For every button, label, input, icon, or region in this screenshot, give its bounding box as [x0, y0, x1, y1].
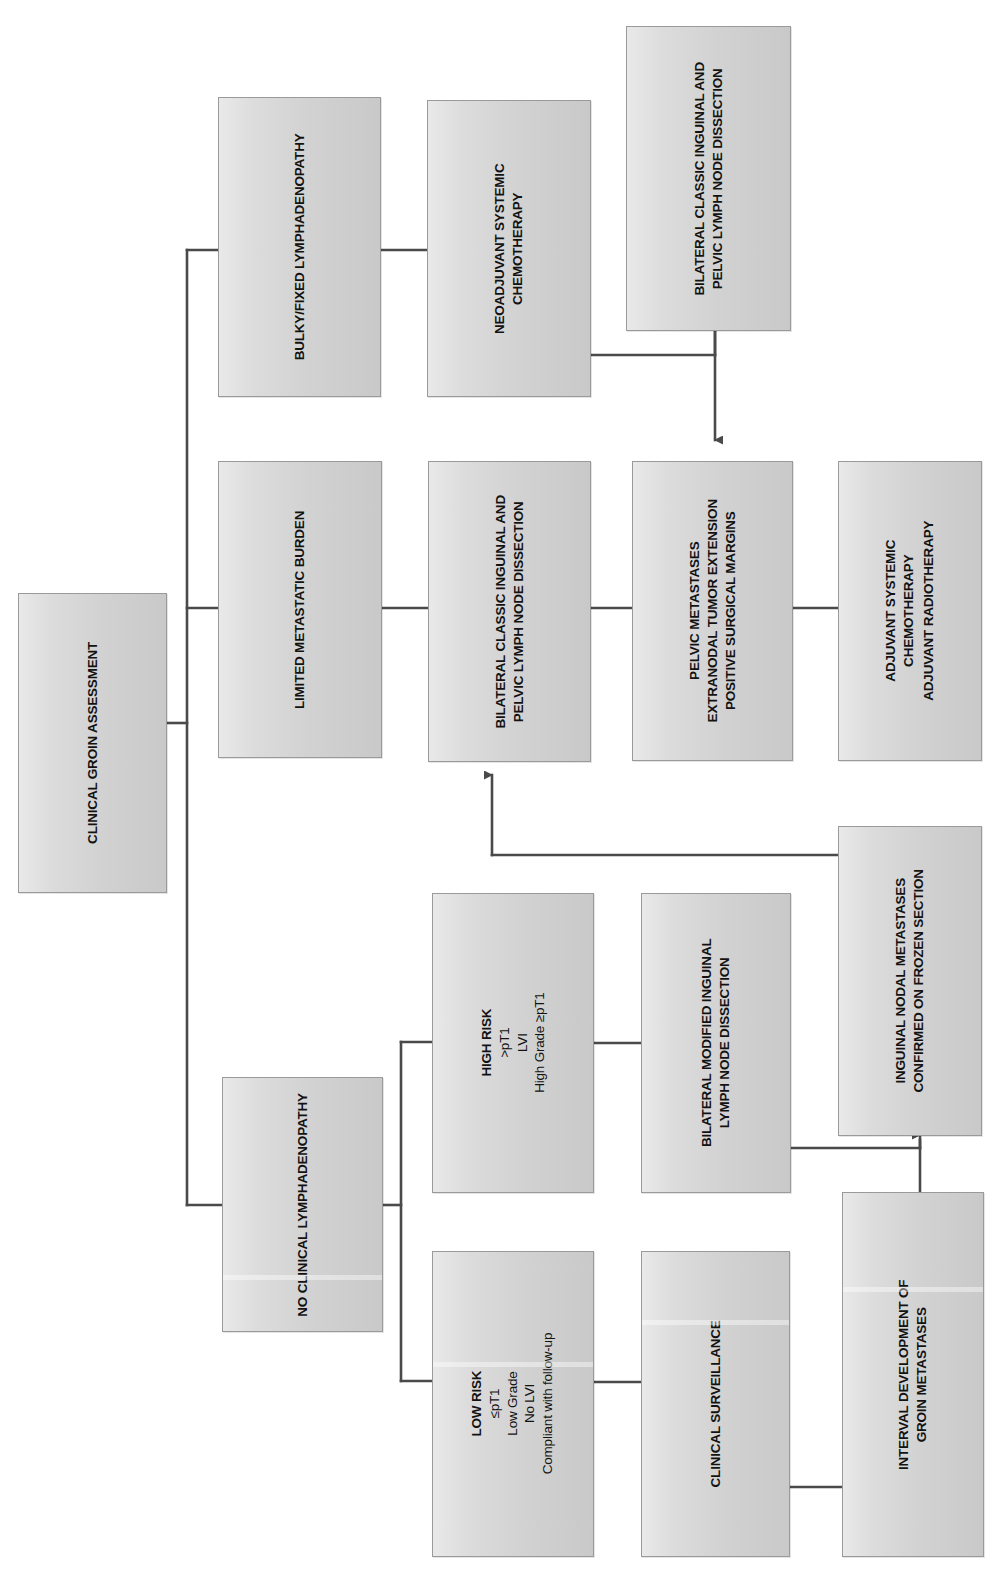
node-label-line-1: INTERVAL DEVELOPMENT OF: [895, 1279, 913, 1469]
node-label-line-1: BILATERAL CLASSIC INGUINAL AND: [492, 495, 510, 729]
node-label-line-2: EXTRANODAL TUMOR EXTENSION: [704, 499, 722, 722]
node-label-line-1: NEOADJUVANT SYSTEMIC: [491, 163, 509, 334]
node-label-line-2: CHEMOTHERAPY: [900, 555, 918, 667]
node-label-line-4: Compliant with follow-up: [540, 1333, 558, 1475]
node-label-line-2: Low Grade: [504, 1372, 522, 1436]
node-label-line-1: INGUINAL NODAL METASTASES: [892, 878, 910, 1084]
node-label-line-1: ADJUVANT SYSTEMIC: [882, 540, 900, 682]
node-bilateral-classic-dissection-top[interactable]: BILATERAL CLASSIC INGUINAL AND PELVIC LY…: [626, 26, 791, 331]
node-no-clinical-lymphadenopathy[interactable]: NO CLINICAL LYMPHADENOPATHY: [222, 1077, 383, 1332]
node-bulky-fixed-lymphadenopathy[interactable]: BULKY/FIXED LYMPHADENOPATHY: [218, 97, 381, 397]
node-label-line-1: ≤pT1: [486, 1389, 504, 1419]
node-inguinal-nodal-metastases-frozen[interactable]: INGUINAL NODAL METASTASES CONFIRMED ON F…: [838, 826, 982, 1136]
node-label-line-2: CHEMOTHERAPY: [509, 192, 527, 304]
node-label-line-1: PELVIC METASTASES: [686, 542, 704, 680]
node-label-line-2: CONFIRMED ON FROZEN SECTION: [910, 869, 928, 1092]
node-label-line-1: BILATERAL CLASSIC INGUINAL AND: [691, 62, 709, 296]
node-limited-metastatic-burden[interactable]: LIMITED METASTATIC BURDEN: [218, 461, 382, 758]
node-bilateral-modified-dissection[interactable]: BILATERAL MODIFIED INGUINAL LYMPH NODE D…: [641, 893, 791, 1193]
node-label-heading: HIGH RISK: [477, 1009, 495, 1077]
node-adjuvant-therapy[interactable]: ADJUVANT SYSTEMIC CHEMOTHERAPY ADJUVANT …: [838, 461, 982, 761]
node-label-line-2: LVI: [513, 1034, 531, 1053]
node-label-line-2: PELVIC LYMPH NODE DISSECTION: [510, 501, 528, 722]
node-label: LIMITED METASTATIC BURDEN: [291, 510, 309, 708]
node-label: CLINICAL GROIN ASSESSMENT: [84, 642, 102, 844]
node-pelvic-metastases-criteria[interactable]: PELVIC METASTASES EXTRANODAL TUMOR EXTEN…: [632, 461, 793, 761]
node-label: BULKY/FIXED LYMPHADENOPATHY: [291, 134, 309, 361]
node-clinical-groin-assessment[interactable]: CLINICAL GROIN ASSESSMENT: [18, 593, 167, 893]
node-bilateral-classic-dissection-mid[interactable]: BILATERAL CLASSIC INGUINAL AND PELVIC LY…: [428, 461, 591, 762]
node-clinical-surveillance[interactable]: CLINICAL SURVEILLANCE: [641, 1251, 790, 1557]
node-label-line-3: ADJUVANT RADIOTHERAPY: [920, 521, 938, 701]
node-neoadjuvant-systemic-chemotherapy[interactable]: NEOADJUVANT SYSTEMIC CHEMOTHERAPY: [427, 100, 591, 397]
node-interval-development-groin-metastases[interactable]: INTERVAL DEVELOPMENT OF GROIN METASTASES: [842, 1192, 984, 1557]
node-label-line-1: BILATERAL MODIFIED INGUINAL: [698, 939, 716, 1148]
node-label-line-2: PELVIC LYMPH NODE DISSECTION: [709, 68, 727, 289]
node-label: CLINICAL SURVEILLANCE: [707, 1320, 725, 1487]
node-label-line-3: High Grade ≥pT1: [531, 993, 549, 1093]
node-label-heading: LOW RISK: [468, 1371, 486, 1437]
node-label-line-3: No LVI: [522, 1384, 540, 1423]
flowchart-canvas: CLINICAL GROIN ASSESSMENT BULKY/FIXED LY…: [0, 0, 997, 1569]
node-high-risk-criteria[interactable]: HIGH RISK >pT1 LVI High Grade ≥pT1: [432, 893, 594, 1193]
node-label: NO CLINICAL LYMPHADENOPATHY: [294, 1093, 312, 1317]
node-label-line-3: POSITIVE SURGICAL MARGINS: [721, 512, 739, 711]
node-label-line-2: LYMPH NODE DISSECTION: [716, 958, 734, 1129]
node-low-risk-criteria[interactable]: LOW RISK ≤pT1 Low Grade No LVI Compliant…: [432, 1251, 594, 1557]
node-label-line-2: GROIN METASTASES: [913, 1307, 931, 1442]
node-label-line-1: >pT1: [495, 1028, 513, 1058]
